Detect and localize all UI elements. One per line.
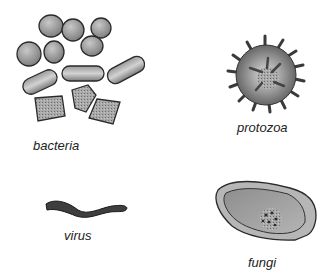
protozoa-label: protozoa (237, 120, 288, 135)
protozoa-illustration (228, 36, 304, 112)
microbes-illustration (0, 0, 335, 274)
fungi-illustration (216, 182, 316, 241)
virus-label: virus (64, 228, 91, 243)
bacteria-label: bacteria (33, 138, 79, 153)
bacteria-illustration (17, 15, 147, 124)
fungi-label: fungi (248, 255, 276, 270)
virus-illustration (46, 201, 127, 217)
